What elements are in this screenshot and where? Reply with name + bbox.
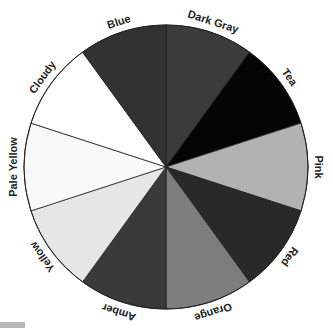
label-pink: Pink [313,155,325,179]
corner-marker [0,322,25,328]
label-blue: Blue [105,12,131,31]
color-wheel: Dark GrayTeaPinkRedOrangeAmberYellowPale… [0,0,333,328]
label-tea: Tea [280,66,301,88]
wheel-segments [24,25,308,309]
label-pale-yellow: Pale Yellow [7,137,19,197]
